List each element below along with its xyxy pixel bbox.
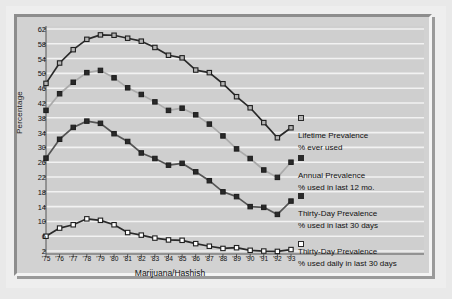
data-point [234,94,238,98]
data-point [125,230,129,234]
data-point [207,179,211,183]
legend-marker-thirty-day [298,193,304,199]
y-tick-label: 62 [24,24,46,33]
data-point [194,113,198,117]
data-point [262,120,266,124]
y-tick-label: 54 [24,54,46,63]
data-point [112,132,116,136]
data-point [289,247,293,251]
legend-marker-annual [298,155,304,161]
y-axis-title: Percentage [15,68,24,158]
data-point [71,47,75,51]
data-point [194,170,198,174]
data-point [221,190,225,194]
data-point [275,175,279,179]
data-point [289,199,293,203]
data-point [166,163,170,167]
legend-title: Thirty-Day Prevalence [298,208,450,220]
y-tick-label: 38 [24,113,46,122]
data-point [112,76,116,80]
data-point [139,233,143,237]
data-point [125,36,129,40]
y-tick-label: 14 [24,202,46,211]
legend-entry-lifetime: Lifetime Prevalence% ever used [298,112,450,153]
data-point [221,134,225,138]
data-point [98,218,102,222]
x-tick-label: '84 [164,255,173,262]
data-point [180,106,184,110]
data-point [180,161,184,165]
legend-label-daily: Thirty-Day Prevalence% used daily in las… [298,246,450,269]
x-tick-label: '89 [232,255,241,262]
data-point [289,126,293,130]
x-tick-label: '88 [219,255,228,262]
data-point [98,121,102,125]
data-point [71,80,75,84]
x-tick-label: '75 [42,255,51,262]
data-point [139,151,143,155]
data-point [139,92,143,96]
data-point [234,194,238,198]
data-point [248,156,252,160]
data-point [57,61,61,65]
x-tick-label: '91 [259,255,268,262]
data-point [125,139,129,143]
data-point [234,246,238,250]
y-tick-label: 22 [24,173,46,182]
x-tick-label: '87 [205,255,214,262]
data-point [98,68,102,72]
data-point [234,147,238,151]
data-point [85,119,89,123]
data-point [57,137,61,141]
data-point [207,70,211,74]
legend-entry-daily: Thirty-Day Prevalence% used daily in las… [298,228,450,269]
data-point [85,217,89,221]
legend-title: Annual Prevalence [298,170,450,182]
data-point [98,33,102,37]
data-point [248,204,252,208]
data-point [112,223,116,227]
legend-marker-daily [298,241,304,247]
x-tick-label: '81 [123,255,132,262]
data-point [153,45,157,49]
data-point [166,108,170,112]
data-point [71,125,75,129]
y-tick-label: 10 [24,217,46,226]
legend-subtitle: % used daily in last 30 days [298,258,450,270]
data-point [85,70,89,74]
y-tick-label: 26 [24,158,46,167]
x-tick-label: '82 [137,255,146,262]
data-point [262,205,266,209]
legend-title: Lifetime Prevalence [298,130,450,142]
x-tick-label: '78 [83,255,92,262]
plot-area-wrapper: 261014182226303438424650545862 '75'76'77… [0,0,452,299]
data-point [221,246,225,250]
data-point [194,68,198,72]
data-point [112,33,116,37]
legend-label-lifetime: Lifetime Prevalence% ever used [298,130,450,153]
y-tick-label: 18 [24,187,46,196]
chart-figure: 261014182226303438424650545862 '75'76'77… [0,0,452,299]
x-tick-label: '77 [69,255,78,262]
legend-entry-annual: Annual Prevalence% used in last 12 mo. [298,152,450,193]
y-tick-label: 34 [24,128,46,137]
x-tick-label: '92 [273,255,282,262]
data-point [180,238,184,242]
data-point [194,241,198,245]
data-point [85,37,89,41]
x-tick-label: '85 [178,255,187,262]
data-point [207,122,211,126]
data-point [248,248,252,252]
data-point [139,39,143,43]
y-tick-label: 42 [24,98,46,107]
data-point [57,226,61,230]
y-tick-label: 58 [24,39,46,48]
x-tick-label: '86 [191,255,200,262]
x-tick-label: '80 [110,255,119,262]
data-point [153,100,157,104]
x-tick-label: '93 [287,255,296,262]
x-tick-label: '90 [246,255,255,262]
data-point [207,244,211,248]
data-point [248,106,252,110]
data-point [180,56,184,60]
